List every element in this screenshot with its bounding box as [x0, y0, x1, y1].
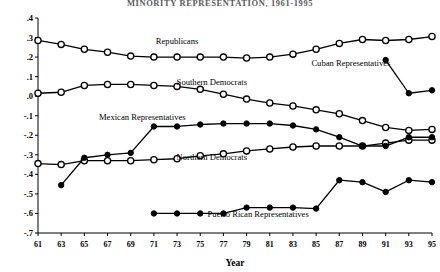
series-marker	[151, 211, 156, 216]
y-tick-label: .4	[27, 13, 34, 23]
series-marker	[290, 123, 295, 128]
y-tick-label: .1	[27, 72, 33, 82]
series-marker	[406, 36, 412, 42]
y-tick-label: -.1	[24, 111, 33, 121]
series-marker	[128, 81, 134, 87]
series-marker	[267, 54, 273, 60]
series-marker	[174, 211, 179, 216]
x-tick-label: 95	[428, 240, 436, 249]
series-marker	[290, 103, 296, 109]
series-marker	[360, 143, 365, 148]
series-marker	[337, 178, 342, 183]
y-tick-label: -.5	[24, 189, 33, 199]
series-marker	[267, 121, 272, 126]
x-tick-label: 87	[335, 240, 343, 249]
series-marker	[198, 122, 203, 127]
x-tick-label: 75	[196, 240, 204, 249]
y-tick-label: -.3	[24, 150, 33, 160]
x-tick-label: 65	[80, 240, 88, 249]
series-marker	[198, 211, 203, 216]
series-marker	[104, 158, 110, 164]
series-marker	[151, 54, 157, 60]
series-marker	[82, 155, 87, 160]
series-label-5: Cuban Representatives	[311, 58, 391, 68]
series-marker	[128, 150, 133, 155]
series-marker	[383, 37, 389, 43]
series-marker	[383, 124, 389, 130]
series-marker	[174, 124, 179, 129]
series-marker	[58, 41, 64, 47]
x-tick-label: 89	[358, 240, 366, 249]
series-marker	[151, 124, 156, 129]
series-marker	[128, 53, 134, 59]
series-marker	[105, 152, 110, 157]
series-marker	[81, 82, 87, 88]
series-marker	[406, 135, 411, 140]
y-tick-label: -.7	[24, 228, 34, 238]
y-tick-label: -.4	[24, 169, 34, 179]
series-marker	[313, 143, 319, 149]
series-marker	[35, 37, 41, 43]
series-marker	[220, 91, 226, 97]
series-marker	[128, 158, 134, 164]
x-tick-label: 77	[219, 240, 227, 249]
series-marker	[429, 126, 435, 132]
series-marker	[429, 135, 434, 140]
series-marker	[359, 36, 365, 42]
series-marker	[406, 127, 412, 133]
series-marker	[267, 146, 273, 152]
series-marker	[174, 54, 180, 60]
x-tick-label: 83	[289, 240, 297, 249]
series-marker	[429, 179, 434, 184]
y-tick-label: .3	[27, 33, 33, 43]
y-tick-label: .2	[27, 52, 33, 62]
series-line-5	[386, 60, 432, 93]
series-marker	[267, 100, 273, 106]
series-marker	[81, 46, 87, 52]
x-tick-label: 73	[173, 240, 181, 249]
series-line-0	[38, 37, 432, 59]
series-marker	[243, 96, 249, 102]
series-marker	[313, 107, 319, 113]
x-tick-label: 81	[266, 240, 274, 249]
series-marker	[336, 143, 342, 149]
chart-plot-area: .4.3.2.1.0-.1-.2-.3-.4-.5-.6-.7616365676…	[0, 0, 440, 272]
x-tick-label: 85	[312, 240, 320, 249]
x-tick-label: 91	[382, 240, 390, 249]
series-marker	[104, 81, 110, 87]
series-marker	[406, 178, 411, 183]
y-tick-label: .0	[27, 91, 33, 101]
x-tick-label: 79	[243, 240, 251, 249]
series-marker	[58, 161, 64, 167]
x-tick-label: 71	[150, 240, 158, 249]
series-marker	[35, 161, 41, 167]
y-tick-label: -.2	[24, 130, 33, 140]
series-marker	[220, 54, 226, 60]
series-marker	[313, 127, 318, 132]
chart-root: MINORITY REPRESENTATION, 1961-1995 .4.3.…	[0, 0, 440, 272]
series-marker	[290, 51, 296, 57]
series-marker	[406, 91, 411, 96]
series-marker	[243, 55, 249, 61]
series-marker	[58, 89, 64, 95]
series-marker	[244, 121, 249, 126]
series-marker	[429, 88, 434, 93]
series-label-2: Northern Democrats	[177, 152, 248, 162]
series-label-4: Puerto Rican Representatives	[208, 209, 310, 219]
series-label-3: Mexican Representatives	[99, 112, 186, 122]
x-axis-title: Year	[226, 258, 246, 268]
series-marker	[151, 157, 157, 163]
series-marker	[151, 82, 157, 88]
series-marker	[35, 90, 41, 96]
series-marker	[313, 46, 319, 52]
x-tick-label: 69	[127, 240, 135, 249]
series-marker	[337, 135, 342, 140]
series-marker	[360, 179, 365, 184]
y-tick-label: -.6	[24, 208, 33, 218]
x-tick-label: 93	[405, 240, 413, 249]
x-tick-label: 67	[104, 240, 112, 249]
series-marker	[221, 121, 226, 126]
series-marker	[359, 118, 365, 124]
series-label-0: Republicans	[156, 36, 199, 46]
series-marker	[383, 143, 388, 148]
